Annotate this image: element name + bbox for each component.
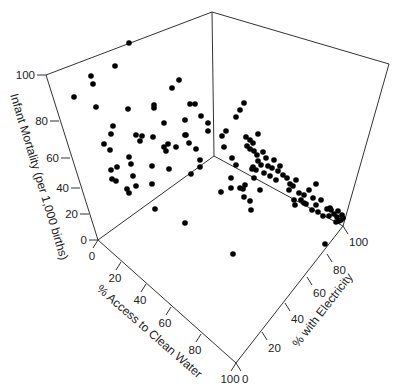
data-point xyxy=(126,40,132,46)
data-point xyxy=(218,189,224,195)
data-point xyxy=(192,101,198,107)
data-point xyxy=(165,141,171,147)
data-point xyxy=(114,164,120,170)
data-point xyxy=(133,183,139,189)
x-tick-label: 100 xyxy=(220,373,239,385)
data-point xyxy=(301,192,307,198)
data-point xyxy=(112,63,118,69)
data-point xyxy=(188,171,194,177)
plot-frame xyxy=(46,12,389,363)
data-point xyxy=(187,101,193,107)
data-point xyxy=(301,200,307,206)
data-point xyxy=(113,178,119,184)
x-axis-title: % Access to Clean Water xyxy=(94,282,205,381)
x-tick-label: 40 xyxy=(134,294,147,306)
data-point xyxy=(250,140,256,146)
data-point xyxy=(269,165,275,171)
data-point xyxy=(247,198,253,204)
frame-line xyxy=(212,12,214,156)
z-tick-label: 40 xyxy=(56,182,69,194)
data-point xyxy=(326,213,332,219)
data-point xyxy=(277,163,283,169)
y-tick-label: 20 xyxy=(268,342,281,354)
data-point xyxy=(284,175,290,181)
data-point xyxy=(237,107,243,113)
data-point xyxy=(333,219,339,225)
data-point xyxy=(126,190,132,196)
data-point xyxy=(309,207,315,213)
data-point xyxy=(229,155,235,161)
data-point xyxy=(310,195,316,201)
data-point xyxy=(133,132,139,138)
data-point xyxy=(254,152,260,158)
data-point xyxy=(186,140,192,146)
data-point xyxy=(71,94,77,100)
data-point xyxy=(150,134,156,140)
y-tick-label: 40 xyxy=(291,313,304,325)
data-point xyxy=(182,220,188,226)
data-point xyxy=(233,162,239,168)
data-point xyxy=(296,190,302,196)
z-tick-label: 20 xyxy=(65,208,78,220)
z-tick-label: 80 xyxy=(35,115,48,127)
data-point xyxy=(315,209,321,215)
data-point xyxy=(293,177,299,183)
data-point xyxy=(263,155,269,161)
data-point xyxy=(193,146,199,152)
data-point xyxy=(248,207,254,213)
data-point xyxy=(108,131,114,137)
data-point xyxy=(130,173,136,179)
data-point xyxy=(258,162,264,168)
data-point xyxy=(223,128,229,134)
3d-scatter-chart: 020406080100020406080100020406080100 Inf… xyxy=(0,0,394,390)
data-point xyxy=(230,251,236,257)
data-point xyxy=(261,170,267,176)
data-point xyxy=(240,186,246,192)
data-point xyxy=(286,187,292,193)
data-point xyxy=(197,164,203,170)
x-tick-label: 80 xyxy=(189,344,202,356)
data-point xyxy=(257,187,263,193)
axis-ticks: 020406080100020406080100020406080100 xyxy=(16,69,368,385)
z-tick-label: 60 xyxy=(46,152,59,164)
data-point xyxy=(221,144,227,150)
data-point xyxy=(322,241,328,247)
data-point xyxy=(306,187,312,193)
data-point xyxy=(149,163,155,169)
data-point xyxy=(176,77,182,83)
data-point xyxy=(273,177,279,183)
data-point xyxy=(93,104,99,110)
data-point xyxy=(250,164,256,170)
data-point xyxy=(198,113,204,119)
data-point xyxy=(101,141,107,147)
frame-line xyxy=(212,12,389,64)
data-point xyxy=(320,213,326,219)
data-point xyxy=(318,197,324,203)
z-tick-label: 0 xyxy=(81,234,87,246)
x-tick-label: 20 xyxy=(109,272,122,284)
y-tick-label: 100 xyxy=(349,236,368,248)
x-tick-label: 60 xyxy=(159,317,172,329)
data-point xyxy=(161,120,167,126)
data-point xyxy=(271,157,277,163)
data-point xyxy=(169,85,175,91)
data-point xyxy=(233,114,239,120)
data-point xyxy=(335,208,341,214)
x-tick-label: 0 xyxy=(89,250,95,262)
data-point xyxy=(241,194,247,200)
data-point xyxy=(183,132,189,138)
data-point xyxy=(88,73,94,79)
data-point xyxy=(151,102,157,108)
z-tick-label: 100 xyxy=(16,69,35,81)
data-point xyxy=(228,175,234,181)
data-point xyxy=(327,205,333,211)
data-point xyxy=(267,173,273,179)
data-point xyxy=(241,100,247,106)
data-point xyxy=(166,166,172,172)
data-point xyxy=(107,147,113,153)
data-point xyxy=(125,106,131,112)
data-point xyxy=(139,133,145,139)
data-point xyxy=(260,149,266,155)
data-point xyxy=(292,202,298,208)
data-point xyxy=(219,133,225,139)
